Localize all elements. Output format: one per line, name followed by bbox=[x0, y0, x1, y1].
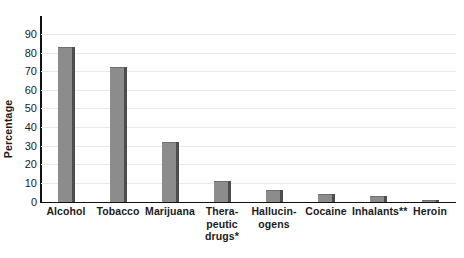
y-tick-label-90: 90 bbox=[3, 29, 37, 40]
plot-area bbox=[40, 16, 456, 203]
gridline-60 bbox=[41, 90, 456, 91]
gridline-80 bbox=[41, 53, 456, 54]
y-tick-label-80: 80 bbox=[3, 47, 37, 58]
gridline-20 bbox=[41, 164, 456, 165]
bar bbox=[318, 194, 335, 201]
gridline-70 bbox=[41, 71, 456, 72]
bar bbox=[370, 196, 387, 202]
bar-top-edge bbox=[266, 190, 280, 191]
y-tick-label-10: 10 bbox=[3, 177, 37, 188]
bar-top-edge bbox=[370, 196, 384, 197]
x-axis-label: Marijuana bbox=[144, 205, 196, 218]
y-axis-line bbox=[40, 16, 42, 203]
x-axis-label: Hallucin-ogens bbox=[248, 205, 300, 230]
bar-top-edge bbox=[318, 194, 332, 195]
x-label-line: Tobacco bbox=[92, 205, 144, 218]
bar-top-edge bbox=[162, 142, 176, 143]
y-tick-label-30: 30 bbox=[3, 140, 37, 151]
bar bbox=[214, 181, 231, 202]
x-axis-label: Tobacco bbox=[92, 205, 144, 218]
gridline-90 bbox=[41, 34, 456, 35]
x-label-line: drugs* bbox=[196, 230, 248, 243]
x-label-line: Marijuana bbox=[144, 205, 196, 218]
x-axis-line bbox=[40, 202, 456, 204]
gridline-50 bbox=[41, 108, 456, 109]
y-tick-label-50: 50 bbox=[3, 103, 37, 114]
y-tick-label-70: 70 bbox=[3, 66, 37, 77]
gridline-30 bbox=[41, 146, 456, 147]
x-axis-label: Heroin bbox=[404, 205, 456, 218]
bar-top-edge bbox=[58, 47, 72, 48]
x-axis-label: Inhalants** bbox=[352, 205, 404, 218]
x-label-line: Inhalants** bbox=[352, 205, 404, 218]
bar-top-edge bbox=[214, 181, 228, 182]
y-tick-label-0: 0 bbox=[3, 196, 37, 207]
x-axis-category-labels: AlcoholTobaccoMarijuanaThera-peuticdrugs… bbox=[40, 205, 456, 258]
y-axis-tick-labels: 9080706050403020100 bbox=[0, 16, 37, 203]
bar bbox=[266, 190, 283, 201]
x-axis-label: Cocaine bbox=[300, 205, 352, 218]
gridline-40 bbox=[41, 127, 456, 128]
y-tick-label-40: 40 bbox=[3, 122, 37, 133]
bar bbox=[422, 200, 439, 202]
bar bbox=[110, 67, 127, 202]
bar-top-edge bbox=[422, 200, 436, 201]
x-label-line: Cocaine bbox=[300, 205, 352, 218]
gridline-10 bbox=[41, 183, 456, 184]
bar bbox=[58, 47, 75, 202]
x-axis-label: Alcohol bbox=[40, 205, 92, 218]
bar-chart: Percentage 9080706050403020100 AlcoholTo… bbox=[0, 0, 464, 258]
x-axis-label: Thera-peuticdrugs* bbox=[196, 205, 248, 243]
x-label-line: Thera- bbox=[196, 205, 248, 218]
x-label-line: peutic bbox=[196, 218, 248, 231]
x-label-line: Hallucin- bbox=[248, 205, 300, 218]
x-label-line: Heroin bbox=[404, 205, 456, 218]
y-tick-label-20: 20 bbox=[3, 159, 37, 170]
bar bbox=[162, 142, 179, 202]
x-label-line: ogens bbox=[248, 218, 300, 231]
bar-top-edge bbox=[110, 67, 124, 68]
y-tick-label-60: 60 bbox=[3, 84, 37, 95]
x-label-line: Alcohol bbox=[40, 205, 92, 218]
